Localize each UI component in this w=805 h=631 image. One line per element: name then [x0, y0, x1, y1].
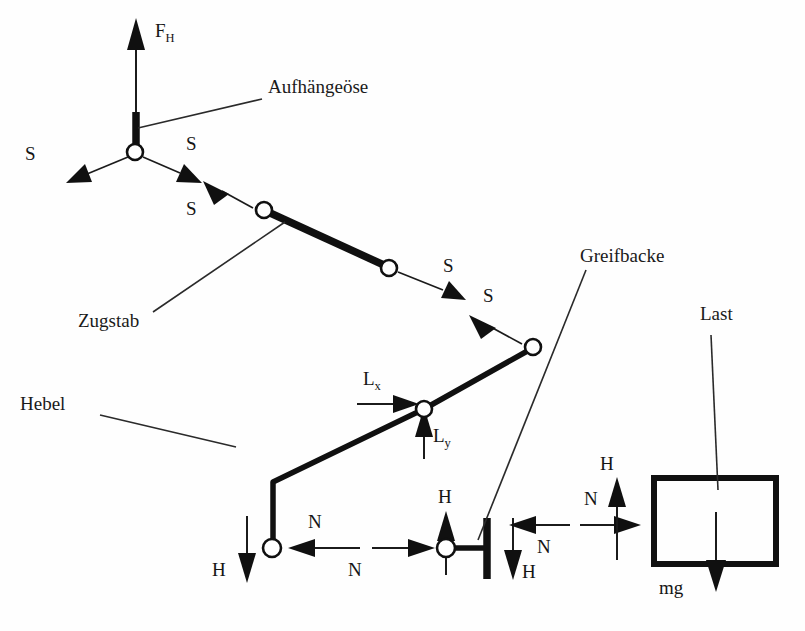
- diagram-canvas: FH Aufhängeöse S S S Zugstab: [0, 0, 805, 631]
- rod-force-5-arrowhead: [469, 315, 496, 339]
- lever-leader: [100, 415, 236, 447]
- rod-force-up-arrow-group: [203, 181, 253, 208]
- joint-chain-3: [381, 260, 397, 276]
- lever-pivot-node: [416, 401, 432, 417]
- normal-4-label: N: [584, 488, 598, 509]
- friction-2-arrowhead: [437, 511, 455, 541]
- rod-force-4-arrow-group: [398, 272, 466, 300]
- rod-force-4-arrowhead: [441, 281, 466, 300]
- rod-force-left-arrowhead: [66, 164, 92, 183]
- free-body-diagram: FH Aufhängeöse S S S Zugstab: [0, 0, 805, 631]
- normal-2-label: N: [348, 559, 362, 580]
- rod-force-right-arrowhead: [176, 164, 202, 183]
- friction-3-arrowhead: [504, 550, 522, 580]
- rod-force-label-4: S: [443, 255, 454, 276]
- rod-force-left-shaft: [87, 157, 128, 174]
- friction-4-label: H: [600, 453, 614, 474]
- tie-rod-bar: [268, 212, 386, 266]
- normal-1-label: N: [308, 511, 322, 532]
- rod-force-label-3: S: [186, 198, 197, 219]
- normal-2-arrow-group: [372, 539, 435, 557]
- friction-3-label: H: [522, 561, 536, 582]
- weight-arrow-group: [706, 512, 726, 592]
- hoist-force-arrowhead: [127, 18, 145, 50]
- bearing-x-arrow-group: [357, 395, 419, 413]
- rod-force-label-2: S: [186, 133, 197, 154]
- weight-arrowhead: [706, 560, 726, 592]
- weight-label: mg: [659, 577, 684, 598]
- normal-4-arrow-group: [580, 516, 641, 534]
- load-leader: [711, 335, 718, 490]
- bearing-y-label: Ly: [433, 425, 452, 450]
- joint-eye-node: [127, 144, 143, 160]
- friction-4-arrowhead: [608, 477, 626, 507]
- normal-1-arrowhead: [288, 539, 315, 557]
- hoist-force-label: FH: [155, 20, 175, 45]
- friction-4-arrow-group: [608, 477, 626, 560]
- normal-2-arrowhead: [408, 539, 435, 557]
- joint-chain-4: [525, 339, 541, 355]
- friction-1-label: H: [212, 559, 226, 580]
- rod-force-left-arrow-group: [66, 157, 128, 183]
- rod-force-4-shaft: [398, 272, 443, 290]
- suspension-eye-label: Aufhängeöse: [268, 76, 368, 97]
- rod-force-right-arrow-group: [143, 157, 202, 183]
- friction-1-arrow-group: [238, 516, 256, 583]
- lever-bottom-node: [263, 539, 281, 557]
- joint-chain-2: [256, 202, 272, 218]
- normal-3-label: N: [537, 536, 551, 557]
- rod-force-5-arrow-group: [469, 315, 522, 344]
- lever-label: Hebel: [20, 393, 65, 414]
- tie-rod-label: Zugstab: [78, 310, 139, 331]
- suspension-eye-leader: [138, 99, 262, 128]
- rod-force-label-1: S: [25, 143, 36, 164]
- rod-force-label-5: S: [483, 285, 494, 306]
- normal-3-arrow-group: [509, 516, 570, 534]
- normal-1-arrow-group: [288, 539, 360, 557]
- normal-4-arrowhead: [614, 516, 641, 534]
- load-label: Last: [700, 303, 733, 324]
- rod-force-right-shaft: [143, 157, 180, 173]
- gripper-jaw-leader: [478, 270, 586, 540]
- bearing-x-label: Lx: [363, 368, 382, 393]
- friction-2-label: H: [438, 486, 452, 507]
- rod-force-up-arrowhead: [203, 181, 229, 205]
- tie-rod-leader: [153, 222, 285, 312]
- friction-1-arrowhead: [238, 553, 256, 583]
- gripper-jaw-node: [437, 539, 455, 557]
- gripper-jaw-label: Greifbacke: [580, 245, 664, 266]
